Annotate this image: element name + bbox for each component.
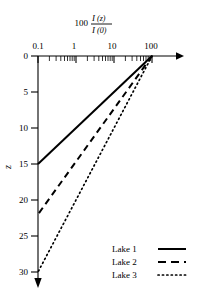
y-tick-label-4: 20 — [19, 195, 29, 205]
y-axis — [34, 56, 41, 288]
title-numerator-arg: (z) — [97, 14, 106, 23]
legend-label-lake-1: Lake 1 — [112, 244, 137, 254]
y-major-ticks — [31, 56, 38, 272]
chart-title: 100 I (z) I (0) — [75, 13, 113, 35]
series-line-lake-1 — [38, 56, 152, 164]
y-tick-label-3: 15 — [19, 159, 29, 169]
title-numerator-fn: I — [91, 13, 96, 23]
title-denominator: I (0) — [91, 25, 107, 35]
y-tick-label-5: 25 — [19, 231, 29, 241]
x-axis-arrowhead — [176, 52, 184, 59]
title-numerator: I (z) — [91, 13, 106, 23]
title-denominator-arg: (0) — [97, 26, 107, 35]
y-tick-label-1: 5 — [24, 87, 29, 97]
x-tick-label-0: 0.1 — [32, 41, 43, 51]
y-tick-labels: 0 5 10 15 20 25 30 — [19, 51, 29, 277]
y-tick-label-0: 0 — [24, 51, 29, 61]
title-denominator-fn: I — [91, 25, 96, 35]
series-line-lake-2 — [38, 56, 152, 214]
semilog-light-attenuation-chart: 100 I (z) I (0) 0.1 1 10 100 — [0, 0, 198, 295]
y-tick-label-6: 30 — [19, 267, 29, 277]
y-axis-label: z — [2, 165, 13, 170]
x-axis — [38, 52, 184, 59]
y-tick-label-2: 10 — [19, 123, 29, 133]
y-axis-arrowhead — [34, 278, 41, 288]
series-lines — [38, 56, 152, 272]
legend-label-lake-2: Lake 2 — [112, 257, 137, 267]
x-tick-label-3: 100 — [144, 41, 158, 51]
title-coefficient: 100 — [75, 18, 89, 28]
chart-figure: 100 I (z) I (0) 0.1 1 10 100 — [0, 0, 198, 295]
x-tick-label-1: 1 — [72, 41, 77, 51]
x-tick-label-2: 10 — [108, 41, 118, 51]
chart-legend: Lake 1 Lake 2 Lake 3 — [112, 244, 186, 280]
x-major-ticks — [38, 56, 152, 63]
legend-label-lake-3: Lake 3 — [112, 270, 137, 280]
series-line-lake-3 — [38, 56, 152, 272]
x-tick-labels: 0.1 1 10 100 — [32, 41, 158, 51]
x-minor-ticks — [49, 56, 150, 61]
